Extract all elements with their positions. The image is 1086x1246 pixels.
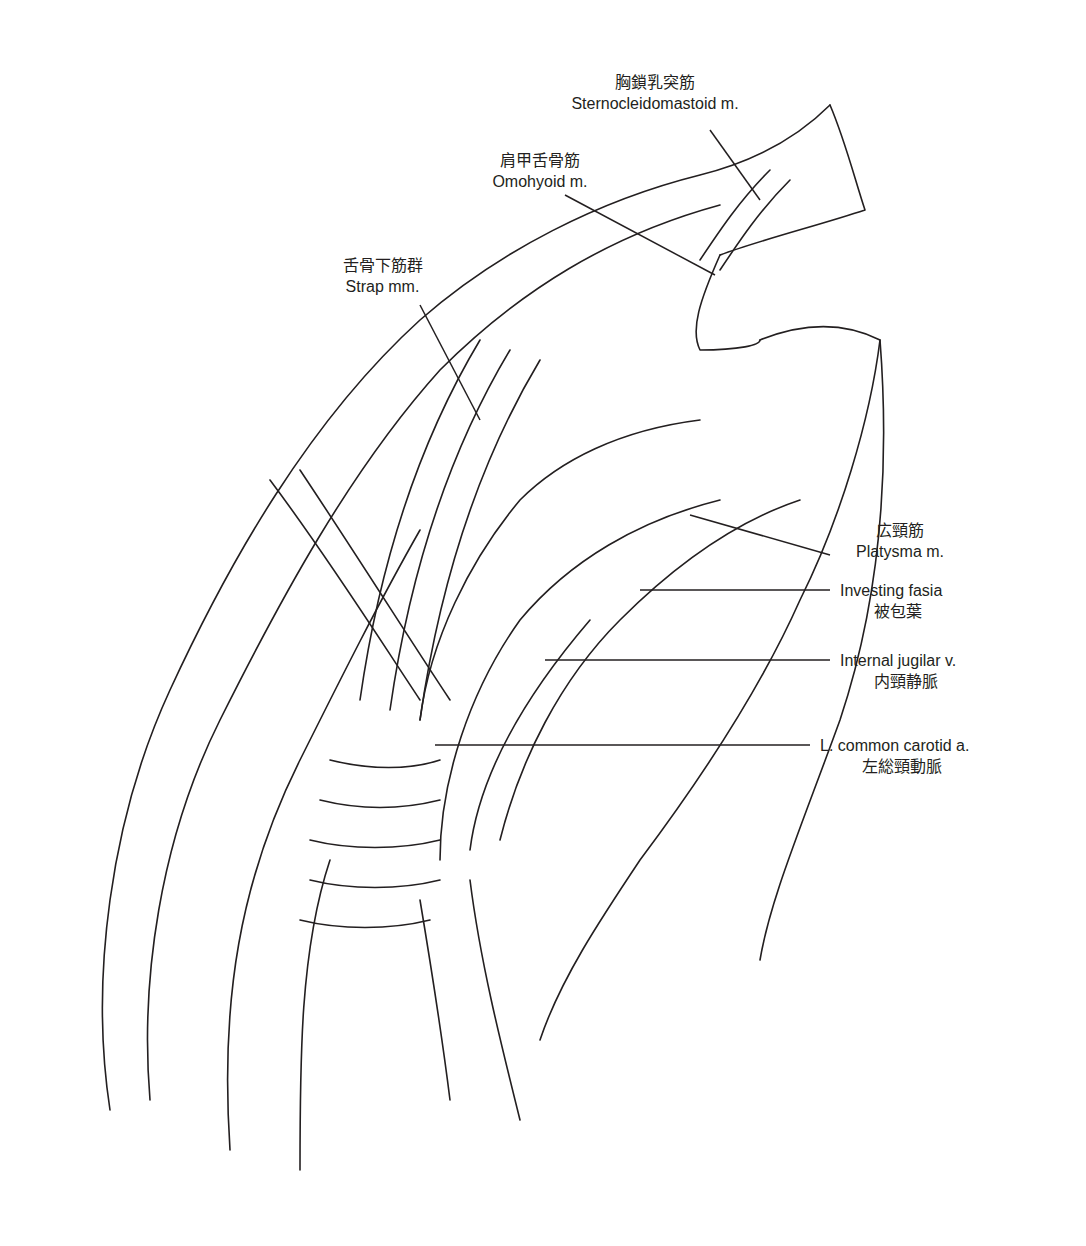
label-internal-jugular-vein: Internal jugilar v. 内頸静脈 <box>840 650 956 692</box>
label-strap: 舌骨下筋群 Strap mm. <box>315 255 450 297</box>
leader-strap <box>420 305 480 420</box>
carotid-artery <box>420 420 720 860</box>
leader-omohyoid <box>565 195 715 275</box>
leader-sternocleidomastoid <box>710 130 760 200</box>
skin-flap-right <box>540 327 880 1040</box>
label-common-carotid-artery: L. common carotid a. 左総頸動脈 <box>820 735 969 777</box>
retractor <box>270 470 450 700</box>
internal-jugular-vein <box>470 500 800 850</box>
label-platysma: 広頸筋 Platysma m. <box>835 520 965 562</box>
skin-flap-left <box>103 105 831 1110</box>
label-investing-fascia: Investing fasia 被包葉 <box>840 580 942 622</box>
label-omohyoid: 肩甲舌骨筋 Omohyoid m. <box>455 150 625 192</box>
label-sternocleidomastoid: 胸鎖乳突筋 Sternocleidomastoid m. <box>560 72 750 114</box>
leader-platysma <box>690 515 830 555</box>
